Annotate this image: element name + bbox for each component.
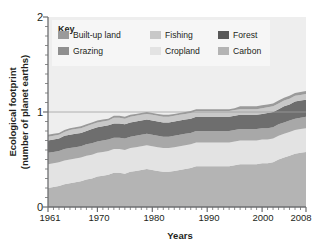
x-tick-label-2000: 2000	[252, 212, 273, 223]
x-tick-label-1980: 1980	[143, 212, 164, 223]
legend-item-forest: Forest	[218, 30, 258, 40]
x-tick-label-1990: 1990	[198, 212, 219, 223]
y-tick-label-1: 1	[37, 106, 43, 118]
ecological-footprint-chart: 2 1 0 1961 1970 1980 1990 2000 2008 Year…	[0, 0, 315, 246]
y-tick-label-2: 2	[37, 11, 43, 23]
legend-swatch-carbon	[218, 47, 229, 55]
legend-label-grazing: Grazing	[73, 46, 103, 56]
legend-item-built-up-land: Built-up land	[58, 30, 121, 40]
legend-item-cropland: Cropland	[150, 46, 200, 56]
legend-swatch-built-up-land	[58, 31, 69, 39]
legend-swatch-fishing	[150, 31, 161, 39]
legend-label-forest: Forest	[233, 30, 258, 40]
x-tick-label-1970: 1970	[88, 212, 109, 223]
legend-label-cropland: Cropland	[165, 46, 200, 56]
legend-item-fishing: Fishing	[150, 30, 193, 40]
legend-label-fishing: Fishing	[165, 30, 193, 40]
legend-swatch-grazing	[58, 47, 69, 55]
x-tick-label-2008: 2008	[290, 212, 311, 223]
legend-background	[52, 20, 270, 66]
y-axis-title-line2: (number of planet earths)	[19, 55, 30, 170]
legend-swatch-forest	[218, 31, 229, 39]
legend-item-carbon: Carbon	[218, 46, 261, 56]
legend-label-carbon: Carbon	[233, 46, 261, 56]
legend-item-grazing: Grazing	[58, 46, 103, 56]
legend-swatch-cropland	[150, 47, 161, 55]
legend-label-built-up-land: Built-up land	[73, 30, 121, 40]
x-tick-label-1961: 1961	[39, 212, 60, 223]
x-axis-title: Years	[167, 230, 192, 241]
chart-canvas: 2 1 0 1961 1970 1980 1990 2000 2008 Year…	[0, 0, 315, 246]
legend: Key Built-up landFishingForestGrazingCro…	[52, 20, 270, 66]
y-axis-ticks	[43, 17, 48, 207]
y-axis-title-line1: Ecological footprint	[7, 67, 18, 157]
